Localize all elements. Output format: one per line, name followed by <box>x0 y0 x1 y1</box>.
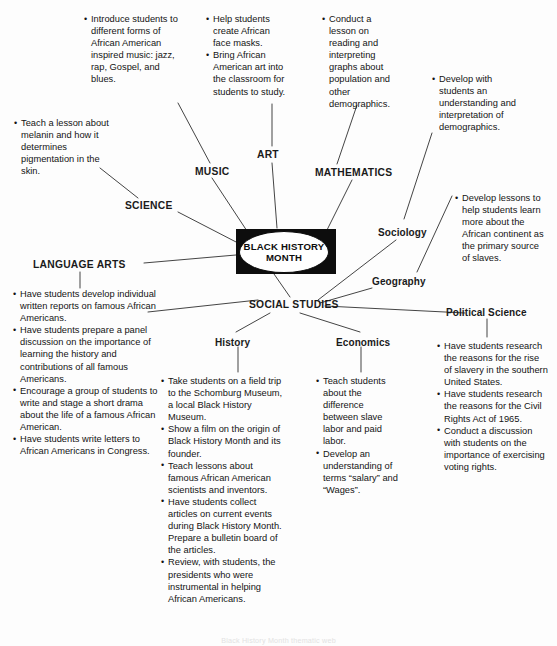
note-block-music: Introduce students to different forms of… <box>84 13 182 86</box>
node-sociology[interactable]: Sociology <box>378 227 427 238</box>
note-item: Conduct a discussion with students on th… <box>437 425 549 473</box>
note-item: Have students prepare a panel discussion… <box>13 324 168 384</box>
note-list-political-science: Have students research the reasons for t… <box>437 340 549 473</box>
connector-music-center <box>212 178 247 231</box>
note-item: Teach a lesson about melanin and how it … <box>14 117 109 177</box>
node-language-arts[interactable]: LANGUAGE ARTS <box>33 259 126 270</box>
node-social-studies[interactable]: SOCIAL STUDIES <box>249 299 339 310</box>
note-item: Develop lessons to help students learn m… <box>455 192 545 265</box>
connector-sociology-note <box>404 133 432 219</box>
connector-langarts-center <box>144 255 236 263</box>
connector-math-note <box>337 105 357 164</box>
note-item: Develop with students an understanding a… <box>432 73 518 133</box>
connector-science-center <box>178 212 238 243</box>
note-item: Have students write letters to African A… <box>13 433 168 457</box>
center-label-line1: BLACK HISTORY <box>244 241 325 252</box>
note-block-political-science: Have students research the reasons for t… <box>437 340 549 473</box>
connector-art-center <box>272 163 277 228</box>
note-block-sociology: Develop with students an understanding a… <box>432 73 518 133</box>
note-block-language-arts: Have students develop individual written… <box>13 288 168 457</box>
note-block-science: Teach a lesson about melanin and how it … <box>14 117 109 177</box>
note-list-sociology: Develop with students an understanding a… <box>432 73 518 133</box>
note-block-mathematics: Conduct a lesson on reading and interpre… <box>322 13 394 110</box>
note-list-mathematics: Conduct a lesson on reading and interpre… <box>322 13 394 110</box>
footer-caption: Black History Month thematic web <box>0 636 557 645</box>
connector-social-history <box>236 313 270 332</box>
center-node-ellipse: BLACK HISTORY MONTH <box>239 231 329 273</box>
connector-music-note <box>178 103 210 163</box>
note-list-history: Take students on a field trip to the Sch… <box>161 375 283 605</box>
note-item: Have students research the reasons for t… <box>437 340 549 388</box>
center-label-line2: MONTH <box>266 252 302 263</box>
note-item: Develop an understanding of terms “salar… <box>316 448 398 496</box>
note-item: Teach students about the difference betw… <box>316 375 398 448</box>
note-list-music: Introduce students to different forms of… <box>84 13 182 86</box>
note-item: Encourage a group of students to write a… <box>13 385 168 433</box>
node-art[interactable]: ART <box>257 149 279 160</box>
note-list-art: Help students create African face masks.… <box>206 13 286 98</box>
center-node-label: BLACK HISTORY MONTH <box>244 241 325 264</box>
node-geography[interactable]: Geography <box>372 276 426 287</box>
center-node[interactable]: BLACK HISTORY MONTH <box>236 229 336 274</box>
note-item: Show a film on the origin of Black Histo… <box>161 423 283 459</box>
note-item: Teach lessons about famous African Ameri… <box>161 460 283 496</box>
note-item: Have students develop individual written… <box>13 288 168 324</box>
note-block-geography: Develop lessons to help students learn m… <box>455 192 545 265</box>
note-item: Review, with students, the presidents wh… <box>161 556 283 604</box>
node-science[interactable]: SCIENCE <box>125 200 173 211</box>
note-block-art: Help students create African face masks.… <box>206 13 286 98</box>
note-item: Have students research the reasons for t… <box>437 388 549 424</box>
note-item: Introduce students to different forms of… <box>84 13 182 86</box>
node-political-science[interactable]: Political Science <box>446 307 527 318</box>
note-list-economics: Teach students about the difference betw… <box>316 375 398 496</box>
note-list-science: Teach a lesson about melanin and how it … <box>14 117 109 177</box>
note-list-language-arts: Have students develop individual written… <box>13 288 168 457</box>
note-item: Have students collect articles on curren… <box>161 496 283 556</box>
note-block-economics: Teach students about the difference betw… <box>316 375 398 496</box>
node-mathematics[interactable]: MATHEMATICS <box>315 167 392 178</box>
note-list-geography: Develop lessons to help students learn m… <box>455 192 545 265</box>
node-music[interactable]: MUSIC <box>195 166 229 177</box>
note-item: Conduct a lesson on reading and interpre… <box>322 13 394 110</box>
node-history[interactable]: History <box>215 337 250 348</box>
note-block-history: Take students on a field trip to the Sch… <box>161 375 283 605</box>
note-item: Take students on a field trip to the Sch… <box>161 375 283 423</box>
node-economics[interactable]: Economics <box>336 337 390 348</box>
mind-map-page: BLACK HISTORY MONTH MUSIC ART MATHEMATIC… <box>0 0 557 646</box>
connector-center-social <box>274 274 290 297</box>
connector-polsci-social <box>325 306 465 313</box>
connector-social-economics <box>300 313 360 332</box>
note-item: Help students create African face masks. <box>206 13 286 49</box>
note-item: Bring African American art into the clas… <box>206 49 286 97</box>
